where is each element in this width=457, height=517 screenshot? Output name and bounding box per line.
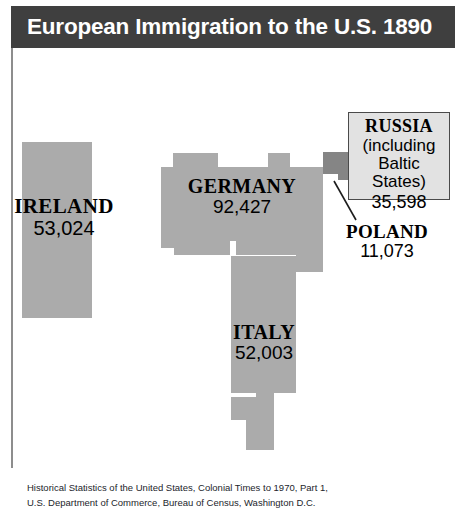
region-label-ireland: IRELAND 53,024 <box>0 196 128 239</box>
region-value-italy: 52,003 <box>203 343 325 362</box>
page-title: European Immigration to the U.S. 1890 <box>27 14 432 40</box>
region-name-russia: RUSSIA <box>349 116 449 137</box>
source-note-line-1: Historical Statistics of the United Stat… <box>27 481 427 496</box>
region-value-poland: 11,073 <box>322 242 452 260</box>
region-label-germany: GERMANY 92,427 <box>162 176 322 217</box>
region-name-germany: GERMANY <box>162 176 322 196</box>
region-label-italy: ITALY 52,003 <box>203 322 325 363</box>
region-name-ireland: IRELAND <box>0 196 128 217</box>
region-name-italy: ITALY <box>203 322 325 342</box>
region-label-poland: POLAND 11,073 <box>322 222 452 261</box>
region-value-ireland: 53,024 <box>0 218 128 238</box>
region-subtitle-russia-line2: Baltic States) <box>349 155 449 191</box>
region-subtitle-russia-line1: (including <box>349 137 449 155</box>
region-value-germany: 92,427 <box>162 197 322 216</box>
region-value-russia: 35,598 <box>349 192 449 213</box>
source-note: Historical Statistics of the United Stat… <box>27 481 427 510</box>
source-note-line-2: U.S. Department of Commerce, Bureau of C… <box>27 496 427 511</box>
region-name-poland: POLAND <box>322 222 452 241</box>
figure-title-banner: European Immigration to the U.S. 1890 <box>11 6 455 48</box>
region-callout-russia: RUSSIA (including Baltic States) 35,598 <box>348 112 450 200</box>
immigration-map-figure: European Immigration to the U.S. 1890 IR… <box>0 0 457 517</box>
